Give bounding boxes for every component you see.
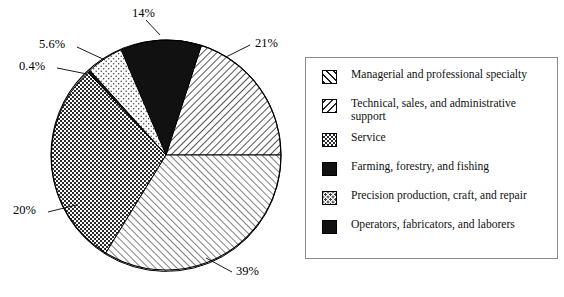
legend-box: Managerial and professional specialty Te… [305,57,558,259]
legend-swatch-solid-black-icon [322,220,337,234]
pie-label-precision: 5.6% [39,38,65,51]
pie-label-managerial: 21% [255,37,278,50]
legend-item-service[interactable]: Service [322,131,549,153]
legend-item-precision[interactable]: Precision production, craft, and repair [322,189,549,211]
leader-line-technical [206,258,232,272]
pie-label-farming: 0.4% [19,60,45,73]
legend-label: Managerial and professional specialty [351,68,527,82]
legend-item-technical[interactable]: Technical, sales, and administrative sup… [322,97,549,124]
leader-line-managerial [226,45,250,57]
pie-label-service: 20% [13,204,36,217]
legend-label: Technical, sales, and administrative sup… [351,97,516,124]
legend-swatch-crosshatch-icon [322,133,337,147]
legend-label: Operators, fabricators, and laborers [351,218,515,232]
legend-label: Service [351,131,386,145]
legend-swatch-hatch-backslash-icon [322,70,337,84]
leader-line-precision [77,47,105,60]
pie-label-operators: 14% [132,7,155,20]
legend-swatch-hatch-slash-icon [322,99,337,113]
leader-line-operators [146,20,160,35]
pie-chart-area: 14% 5.6% 0.4% 21% 20% 39% [0,0,300,297]
pie-label-technical: 39% [236,265,259,278]
legend-item-operators[interactable]: Operators, fabricators, and laborers [322,218,549,240]
legend-list: Managerial and professional specialty Te… [306,58,557,258]
legend-label: Precision production, craft, and repair [351,189,527,203]
legend-item-farming[interactable]: Farming, forestry, and fishing [322,160,549,182]
legend-label: Farming, forestry, and fishing [351,160,489,174]
leader-line-farming [57,68,87,74]
legend-item-managerial[interactable]: Managerial and professional specialty [322,68,549,90]
legend-swatch-dots-icon [322,191,337,205]
pie-chart-figure: 14% 5.6% 0.4% 21% 20% 39% Managerial and… [0,0,564,297]
legend-swatch-solid-black-icon [322,162,337,176]
